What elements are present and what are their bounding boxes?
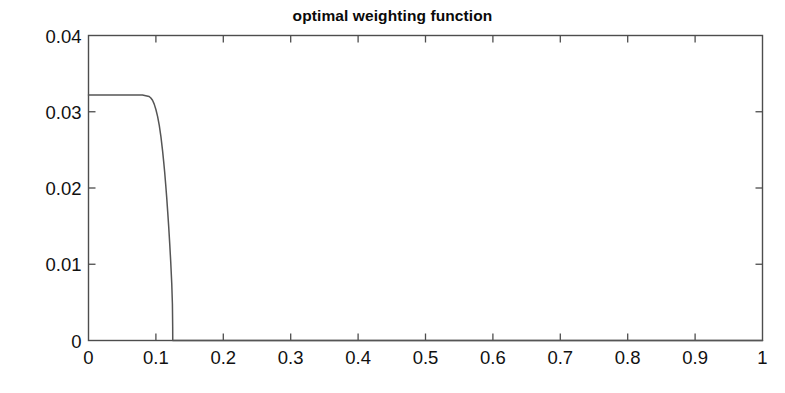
figure-canvas: optimal weighting function 00.010.020.03… <box>0 0 785 393</box>
x-tick-label: 0.2 <box>210 347 236 368</box>
axis-ticks <box>89 36 763 341</box>
x-tick-label: 0.5 <box>413 347 439 368</box>
plot-area <box>0 0 785 393</box>
y-tick-label: 0.02 <box>45 178 81 199</box>
axes-frame <box>89 36 763 341</box>
y-tick-label: 0.01 <box>45 254 81 275</box>
y-tick-label: 0.03 <box>45 101 81 122</box>
x-tick-label: 0.9 <box>682 347 708 368</box>
x-tick-label: 0.4 <box>345 347 371 368</box>
x-tick-label: 0.7 <box>547 347 573 368</box>
y-tick-label: 0.04 <box>45 25 81 46</box>
data-series <box>89 95 763 341</box>
x-tick-label: 0.6 <box>480 347 506 368</box>
x-tick-label: 0.3 <box>278 347 304 368</box>
y-tick-label: 0 <box>71 330 81 351</box>
x-tick-label: 1 <box>757 347 767 368</box>
x-tick-label: 0.8 <box>615 347 641 368</box>
x-tick-label: 0 <box>83 347 93 368</box>
x-tick-label: 0.1 <box>143 347 169 368</box>
